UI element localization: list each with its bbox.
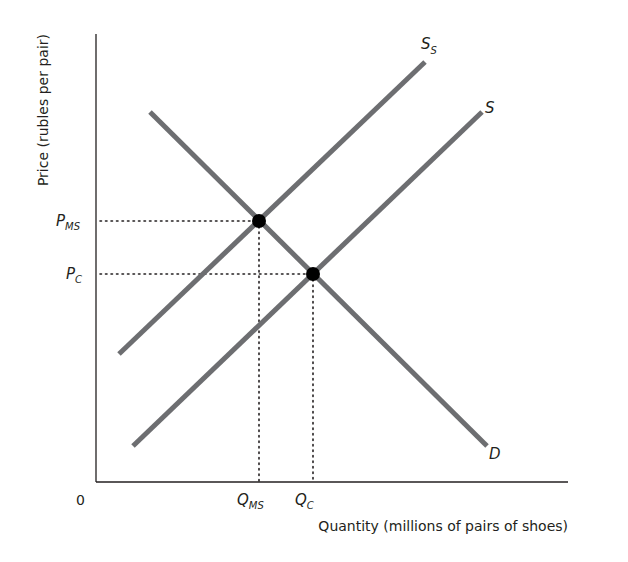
label-d: D <box>489 445 501 463</box>
label-pc: PC <box>66 265 82 285</box>
supply-demand-chart: SS S D PMS PC QMS QC 0 Quantity (million… <box>0 0 628 562</box>
label-pms: PMS <box>56 212 81 232</box>
equilibrium-c-point <box>306 267 320 281</box>
origin-label: 0 <box>76 492 85 508</box>
label-qms: QMS <box>237 491 264 511</box>
label-s: S <box>485 99 495 117</box>
guide-lines <box>100 221 313 482</box>
x-axis-title: Quantity (millions of pairs of shoes) <box>318 518 568 534</box>
equilibrium-ms-point <box>252 214 266 228</box>
supply-s-curve <box>133 112 482 446</box>
label-qc: QC <box>295 491 314 511</box>
y-axis-title: Price (rubles per pair) <box>35 34 51 186</box>
label-ss: SS <box>421 35 438 56</box>
